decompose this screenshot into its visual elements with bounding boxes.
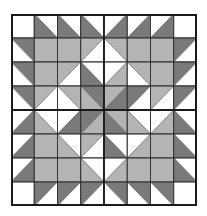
quilt-cell (11, 38, 34, 62)
quilt-cell (151, 62, 174, 86)
quilt-cell (151, 134, 174, 158)
quilt-cell (81, 86, 104, 110)
quilt-cell (34, 62, 57, 86)
quilt-cell (34, 134, 57, 158)
quilt-cell (127, 182, 150, 206)
quilt-cell (58, 14, 81, 38)
quilt-cell (11, 158, 34, 182)
quilt-cell (81, 158, 104, 182)
quilt-cell (104, 182, 127, 206)
quilt-cell (174, 182, 197, 206)
quilt-cell (34, 86, 57, 110)
quilt-cell (34, 182, 57, 206)
quilt-cell (151, 86, 174, 110)
quilt-cell (104, 14, 127, 38)
quilt-cell (151, 38, 174, 62)
quilt-cell (34, 158, 57, 182)
quilt-cell (127, 38, 150, 62)
quilt-cell (104, 86, 127, 110)
quilt-cell (58, 182, 81, 206)
quilt-cell (174, 158, 197, 182)
quilt-cell (104, 38, 127, 62)
quilt-pattern (11, 14, 197, 206)
quilt-cell (104, 134, 127, 158)
quilt-cell (58, 38, 81, 62)
quilt-cell (127, 110, 150, 134)
quilt-cell (58, 62, 81, 86)
quilt-cell (127, 14, 150, 38)
quilt-cell (58, 86, 81, 110)
quilt-cell (81, 38, 104, 62)
quilt-cell (11, 62, 34, 86)
quilt-cell (81, 62, 104, 86)
quilt-cell (104, 62, 127, 86)
quilt-cell (81, 110, 104, 134)
quilt-cell (81, 134, 104, 158)
quilt-cell (11, 14, 34, 38)
quilt-cell (127, 86, 150, 110)
quilt-cell (11, 110, 34, 134)
quilt-cell (11, 86, 34, 110)
quilt-cell (34, 110, 57, 134)
quilt-cell (174, 14, 197, 38)
quilt-cell (58, 158, 81, 182)
quilt-cell (104, 158, 127, 182)
quilt-cell (151, 158, 174, 182)
quilt-cell (127, 158, 150, 182)
quilt-cell (174, 38, 197, 62)
quilt-cell (174, 86, 197, 110)
quilt-cell (81, 14, 104, 38)
quilt-cell (11, 182, 34, 206)
quilt-cell (34, 14, 57, 38)
quilt-cell (11, 134, 34, 158)
quilt-cell (151, 182, 174, 206)
quilt-cell (174, 134, 197, 158)
quilt-cell (174, 62, 197, 86)
quilt-cell (81, 182, 104, 206)
quilt-cell (127, 134, 150, 158)
quilt-cell (58, 134, 81, 158)
quilt-cell (58, 110, 81, 134)
quilt-cell (174, 110, 197, 134)
quilt-cell (151, 14, 174, 38)
quilt-cell (151, 110, 174, 134)
quilt-cell (104, 110, 127, 134)
quilt-cell (34, 38, 57, 62)
quilt-cell (127, 62, 150, 86)
